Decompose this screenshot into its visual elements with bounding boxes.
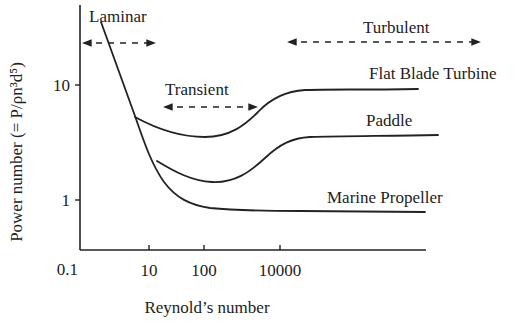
flat-blade-turbine-label: Flat Blade Turbine	[369, 64, 497, 83]
laminar-label: Laminar	[89, 7, 147, 26]
power-number-chart: 10 1 0.1 10 100 10000 Reynold’s number P…	[0, 0, 530, 325]
x-tick-label-10000: 10000	[259, 261, 302, 280]
y-tick-label-0-1: 0.1	[57, 260, 78, 279]
marine-propeller-label: Marine Propeller	[327, 188, 443, 207]
turbulent-label: Turbulent	[363, 18, 430, 37]
x-axis-title: Reynold’s number	[144, 298, 269, 317]
y-axis-title: Power number (= P/ρn³d⁵)	[7, 62, 26, 242]
y-tick-label-10: 10	[53, 76, 70, 95]
x-tick-label-10: 10	[141, 261, 158, 280]
y-tick-label-1: 1	[62, 191, 71, 210]
paddle-curve	[157, 135, 438, 182]
x-tick-label-100: 100	[191, 261, 217, 280]
paddle-label: Paddle	[366, 111, 412, 130]
transient-label: Transient	[165, 80, 229, 99]
chart-canvas: 10 1 0.1 10 100 10000 Reynold’s number P…	[0, 0, 530, 325]
